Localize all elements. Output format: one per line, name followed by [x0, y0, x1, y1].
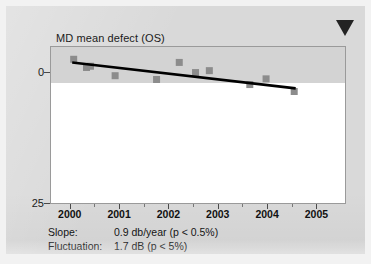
y-axis-tick-label-top: 0	[22, 66, 44, 78]
chart-panel: MD mean defect (OS) 0 25 200020012002200…	[6, 6, 365, 254]
x-axis-minor-tick-mark	[193, 204, 194, 207]
chart-title: MD mean defect (OS)	[56, 32, 165, 44]
data-point-marker	[112, 72, 119, 79]
progression-flag-triangle-icon	[336, 20, 354, 36]
x-axis-tick-label-2004: 2004	[255, 208, 278, 220]
x-axis-tick-label-2001: 2001	[107, 208, 130, 220]
trend-line	[72, 62, 295, 88]
x-axis-tick-label-2005: 2005	[305, 208, 328, 220]
glaucoma-progression-chart-screenshot: MD mean defect (OS) 0 25 200020012002200…	[0, 0, 371, 264]
data-point-marker	[176, 59, 183, 66]
x-axis-minor-tick-mark	[292, 204, 293, 207]
data-point-marker	[153, 76, 160, 83]
data-point-marker	[206, 67, 213, 74]
x-axis-tick-label-2002: 2002	[157, 208, 180, 220]
x-axis-minor-tick-mark	[144, 204, 145, 207]
chart-data-layer	[50, 46, 346, 204]
x-axis-tick-label-2000: 2000	[58, 208, 81, 220]
fluctuation-label: Fluctuation:	[48, 239, 114, 253]
fluctuation-value: 1.7 dB (p < 5%)	[114, 239, 187, 253]
y-axis-tick-label-bottom: 25	[22, 197, 44, 209]
x-axis-minor-tick-mark	[242, 204, 243, 207]
x-axis-minor-tick-mark	[94, 204, 95, 207]
x-axis-tick-label-2003: 2003	[206, 208, 229, 220]
statistics-block: Slope: 0.9 db/year (p < 0.5%) Fluctuatio…	[48, 225, 218, 253]
slope-row: Slope: 0.9 db/year (p < 0.5%)	[48, 225, 218, 239]
data-point-marker	[192, 69, 199, 76]
data-point-marker	[263, 75, 270, 82]
slope-value: 0.9 db/year (p < 0.5%)	[114, 225, 218, 239]
slope-label: Slope:	[48, 225, 114, 239]
fluctuation-row: Fluctuation: 1.7 dB (p < 5%)	[48, 239, 218, 253]
